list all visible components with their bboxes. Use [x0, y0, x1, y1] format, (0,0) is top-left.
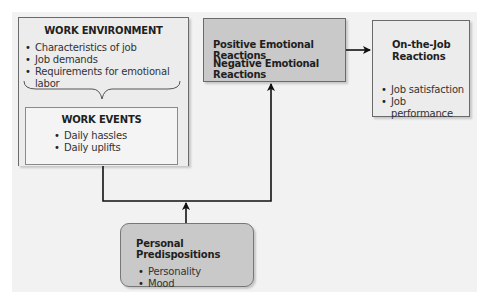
connector-arrows — [0, 0, 490, 306]
work-events-to-emotions-line — [103, 84, 271, 201]
